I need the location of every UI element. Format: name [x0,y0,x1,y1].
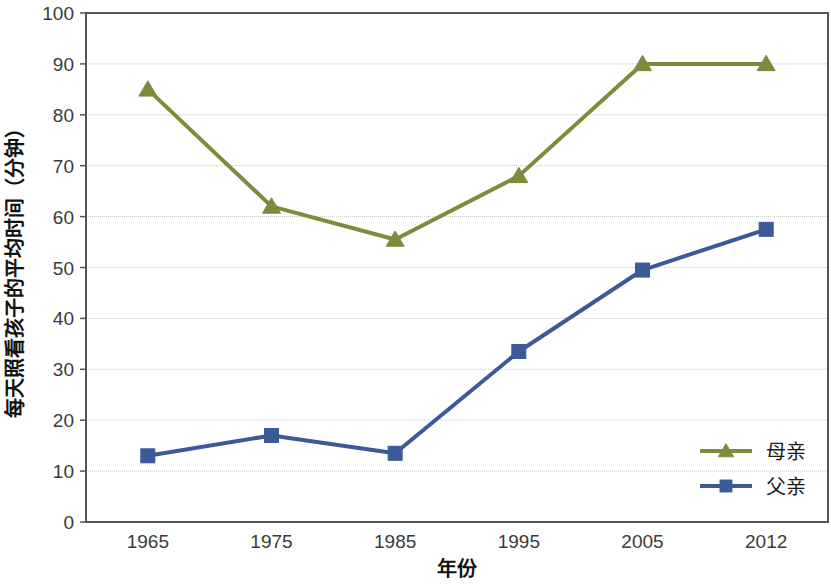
x-axis-title: 年份 [437,557,478,580]
legend-label: 父亲 [766,476,806,498]
data-point-marker-square [265,428,279,442]
y-axis-tick-label: 60 [53,207,74,228]
y-axis-tick-label: 70 [53,156,74,177]
data-point-marker-square [512,344,526,358]
x-axis-tick-label: 1995 [498,531,540,552]
x-axis-tick-label: 1975 [250,531,292,552]
y-axis-tick-label: 10 [53,461,74,482]
y-axis-tick-label: 40 [53,308,74,329]
data-point-marker-square [141,449,155,463]
y-axis-tick-label: 100 [42,3,74,24]
x-axis-tick-label: 2012 [745,531,787,552]
data-point-marker-square [720,480,732,492]
y-axis-tick-label: 50 [53,258,74,279]
x-axis-tick-label: 2005 [621,531,663,552]
legend-label: 母亲 [766,441,806,463]
y-axis-tick-label: 30 [53,359,74,380]
x-axis-tick-label: 1985 [374,531,416,552]
y-axis-title: 每天照看孩子的平均时间（分钟） [3,118,26,418]
data-point-marker-square [388,446,402,460]
x-axis-tick-label: 1965 [127,531,169,552]
y-axis-tick-label: 20 [53,410,74,431]
y-axis-tick-labels: 0102030405060708090100 [42,3,74,533]
data-point-marker-square [636,263,650,277]
y-axis-tick-label: 0 [63,512,74,533]
line-chart: 0102030405060708090100 19651975198519952… [0,0,831,587]
y-axis-tick-label: 90 [53,54,74,75]
y-axis-tick-label: 80 [53,105,74,126]
data-point-marker-square [759,222,773,236]
x-axis-tick-labels: 196519751985199520052012 [127,531,788,552]
chart-canvas: 0102030405060708090100 19651975198519952… [0,0,831,587]
